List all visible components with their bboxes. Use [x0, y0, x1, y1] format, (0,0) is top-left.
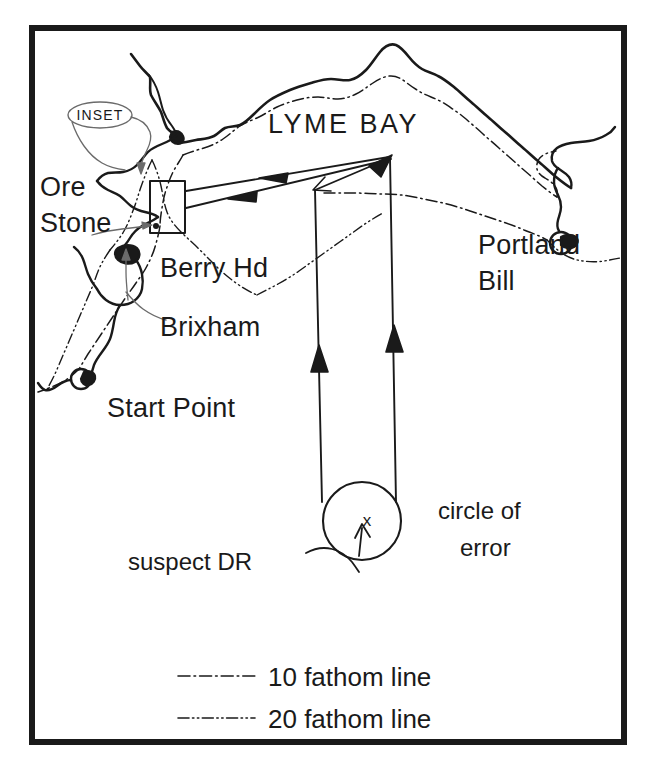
- label-ore-stone-line1: Ore: [40, 172, 86, 202]
- label-ore-stone-line2: Stone: [40, 208, 112, 238]
- label-portland-line1: Portland: [478, 230, 580, 260]
- legend-item-1-label: 20 fathom line: [268, 704, 431, 734]
- inset-corner-dot-icon: [153, 223, 159, 229]
- label-circle-of-error-line1: circle of: [438, 497, 521, 524]
- label-brixham: Brixham: [160, 312, 260, 342]
- label-start-point: Start Point: [107, 393, 236, 423]
- label-circle-of-error-line2: error: [460, 534, 511, 561]
- nautical-chart-figure: LYME BAY Ore Stone Berry Hd Brixham Star…: [0, 0, 658, 771]
- start-point-marker-fill-icon: [81, 371, 95, 385]
- legend-item-0-label: 10 fathom line: [268, 662, 431, 692]
- label-berry-head: Berry Hd: [160, 253, 268, 283]
- label-inset: INSET: [76, 107, 123, 123]
- label-lyme-bay: LYME BAY: [268, 109, 419, 139]
- label-portland-line2: Bill: [478, 266, 515, 296]
- label-suspect-dr: suspect DR: [128, 548, 252, 575]
- label-dr-mark: x: [363, 511, 372, 530]
